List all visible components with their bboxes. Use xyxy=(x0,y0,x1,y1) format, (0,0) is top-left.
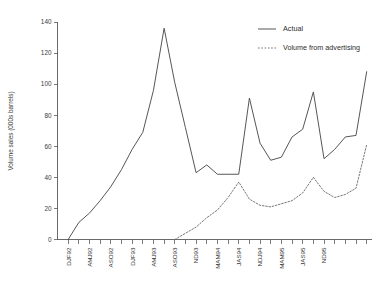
x-tick-label: ASO92 xyxy=(107,247,114,268)
x-axis-group: DJF92AMJ92ASO92DJF93AMJ93ASO93ND93MAM94J… xyxy=(58,240,373,269)
legend: Actual Volume from advertising xyxy=(258,24,360,52)
y-tick-label: 20 xyxy=(44,205,52,212)
series-line-actual xyxy=(68,28,367,239)
x-tick-label: ND95 xyxy=(320,247,327,263)
x-tick-label: MAM95 xyxy=(278,247,285,269)
x-tick-label: AMJ93 xyxy=(150,247,157,267)
x-tick-label: MAM94 xyxy=(214,247,221,269)
y-tick-label: 60 xyxy=(44,143,52,150)
x-tick-label: DJF92 xyxy=(65,247,72,266)
legend-label-actual: Actual xyxy=(283,24,303,33)
y-axis-label: Volume sales (000s barrels) xyxy=(7,91,15,170)
x-tick-label: JAS95 xyxy=(299,247,306,266)
x-tick-label: AMJ92 xyxy=(86,247,93,267)
y-tick-label: 140 xyxy=(41,18,52,25)
line-chart: 020406080100120140 Volume sales (000s ba… xyxy=(0,0,380,289)
chart-container: 020406080100120140 Volume sales (000s ba… xyxy=(0,0,380,289)
y-tick-label: 0 xyxy=(48,236,52,243)
series-group xyxy=(68,28,367,239)
x-tick-label: DJF93 xyxy=(129,247,136,266)
y-tick-label: 100 xyxy=(41,80,52,87)
y-tick-label: 80 xyxy=(44,112,52,119)
x-tick-label-group: DJF92AMJ92ASO92DJF93AMJ93ASO93ND93MAM94J… xyxy=(65,247,328,269)
y-axis-group: 020406080100120140 Volume sales (000s ba… xyxy=(7,18,58,243)
legend-label-volume-from-advertising: Volume from advertising xyxy=(283,43,360,52)
y-tick-label: 120 xyxy=(41,49,52,56)
series-line-volume-from-advertising xyxy=(175,145,367,240)
x-tick-label: NDJ94 xyxy=(256,247,263,266)
y-tick-label: 40 xyxy=(44,174,52,181)
x-tick-label: ND93 xyxy=(192,247,199,263)
y-tick-group: 020406080100120140 xyxy=(41,18,58,243)
x-tick-group xyxy=(68,240,367,244)
x-tick-label: ASO93 xyxy=(171,247,178,268)
x-tick-label: JAS94 xyxy=(235,247,242,266)
